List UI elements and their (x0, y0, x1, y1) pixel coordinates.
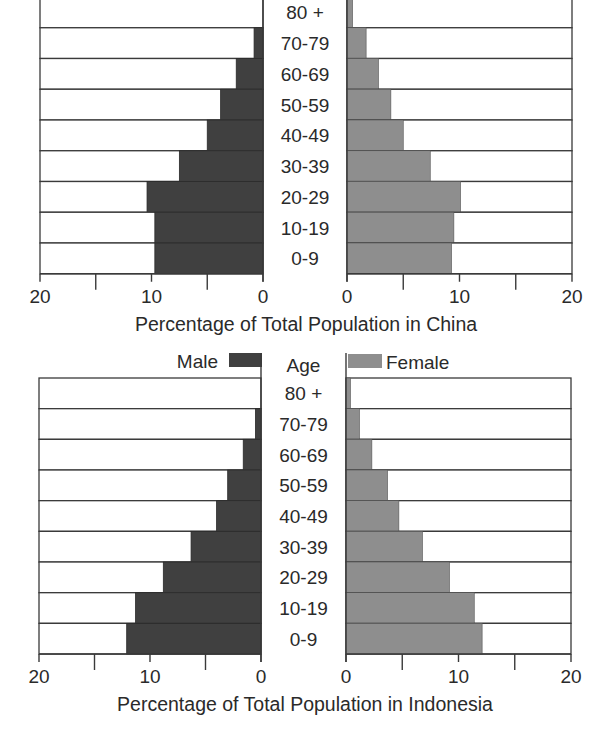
age-group-label: 0-9 (291, 248, 318, 269)
age-group-label: 50-59 (279, 475, 328, 496)
female-bar-0-9 (346, 623, 482, 654)
female-bar-10-19 (347, 212, 454, 243)
age-group-label: 20-29 (279, 567, 328, 588)
female-bar-20-29 (347, 182, 461, 213)
age-group-label: 80 + (285, 383, 323, 404)
female-bar-70-79 (346, 409, 360, 440)
male-row-box (40, 0, 263, 28)
x-tick-label: 0 (256, 666, 267, 687)
age-group-label: 70-79 (279, 414, 328, 435)
female-bar-70-79 (347, 28, 366, 59)
x-tick-label: 20 (28, 666, 49, 687)
male-bar-60-69 (243, 439, 261, 470)
male-bar-40-49 (207, 120, 263, 151)
male-row-box (39, 378, 261, 409)
female-bar-30-39 (347, 151, 430, 182)
age-group-label: 10-19 (281, 218, 330, 239)
female-row-box (346, 439, 571, 470)
x-axis-title: Percentage of Total Population in China (135, 313, 477, 335)
male-bar-10-19 (136, 593, 261, 624)
male-bar-40-49 (217, 501, 261, 532)
x-tick-label: 0 (342, 286, 353, 307)
male-row-box (39, 439, 261, 470)
female-bar-60-69 (347, 59, 379, 90)
legend-female-swatch (348, 354, 382, 368)
population-pyramids-figure: 80 +70-7960-6950-5940-4930-3920-2910-190… (0, 0, 602, 736)
x-tick-label: 10 (139, 666, 160, 687)
china-population-pyramid: 80 +70-7960-6950-5940-4930-3920-2910-190… (29, 0, 582, 335)
male-row-box (40, 59, 263, 90)
x-tick-label: 10 (141, 286, 162, 307)
age-group-label: 60-69 (281, 64, 330, 85)
male-bar-30-39 (179, 151, 263, 182)
legend-male-swatch (229, 353, 262, 367)
x-tick-label: 10 (448, 666, 469, 687)
x-tick-label: 0 (341, 666, 352, 687)
male-bar-20-29 (163, 562, 261, 593)
age-group-label: 70-79 (281, 33, 330, 54)
female-row-box (347, 59, 572, 90)
age-group-label: 30-39 (281, 156, 330, 177)
x-tick-label: 20 (560, 666, 581, 687)
female-bar-60-69 (346, 439, 372, 470)
male-bar-20-29 (147, 182, 263, 213)
x-tick-label: 20 (29, 286, 50, 307)
female-bar-0-9 (347, 243, 452, 274)
male-bar-0-9 (155, 243, 263, 274)
male-row-box (39, 409, 261, 440)
female-row-box (346, 409, 571, 440)
female-row-box (347, 0, 572, 28)
male-bar-70-79 (254, 28, 263, 59)
x-tick-label: 10 (449, 286, 470, 307)
male-bar-30-39 (191, 531, 261, 562)
age-group-label: 60-69 (279, 445, 328, 466)
indonesia-population-pyramid: 80 +70-7960-6950-5940-4930-3920-2910-190… (28, 351, 581, 715)
male-bar-50-59 (228, 470, 261, 501)
female-row-box (347, 28, 572, 59)
female-bar-80 (347, 0, 353, 28)
pyramid-charts-svg: 80 +70-7960-6950-5940-4930-3920-2910-190… (0, 0, 602, 736)
female-bar-50-59 (347, 89, 391, 120)
female-bar-20-29 (346, 562, 450, 593)
male-bar-70-79 (255, 409, 261, 440)
age-group-label: 10-19 (279, 598, 328, 619)
legend-female-label: Female (386, 352, 449, 373)
male-row-box (40, 28, 263, 59)
male-bar-60-69 (236, 59, 263, 90)
female-row-box (346, 378, 571, 409)
female-bar-40-49 (347, 120, 403, 151)
legend-age-label: Age (287, 355, 321, 376)
male-bar-10-19 (155, 212, 263, 243)
x-tick-label: 0 (258, 286, 269, 307)
x-axis-title: Percentage of Total Population in Indone… (117, 693, 493, 715)
female-bar-30-39 (346, 531, 423, 562)
female-bar-50-59 (346, 470, 388, 501)
age-group-label: 80 + (286, 2, 324, 23)
female-bar-40-49 (346, 501, 399, 532)
age-group-label: 20-29 (281, 187, 330, 208)
age-group-label: 0-9 (290, 629, 317, 650)
male-bar-50-59 (221, 89, 263, 120)
male-bar-0-9 (127, 623, 261, 654)
age-group-label: 30-39 (279, 537, 328, 558)
legend-male-label: Male (177, 351, 218, 372)
age-group-label: 40-49 (281, 125, 330, 146)
age-group-label: 40-49 (279, 506, 328, 527)
x-tick-label: 20 (561, 286, 582, 307)
female-bar-10-19 (346, 593, 474, 624)
age-group-label: 50-59 (281, 95, 330, 116)
